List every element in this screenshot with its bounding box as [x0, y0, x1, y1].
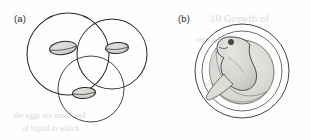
blastodisc-lower: [72, 87, 96, 100]
embryo-eye: [228, 39, 233, 44]
blastodisc-upper-left-body: [49, 40, 78, 57]
panel-b-label: (b): [178, 13, 190, 24]
figure-container: 10 Growth of reproduction development th…: [0, 0, 311, 140]
panel-a: (a): [14, 13, 147, 122]
bleed-line-4: of liquid in which: [22, 124, 79, 133]
bleed-line-3: the eggs are small and: [14, 111, 85, 120]
panel-a-label: (a): [14, 13, 26, 24]
panel-b: (b): [178, 13, 289, 118]
upper-right-egg: [77, 19, 147, 89]
blastodisc-upper-right: [105, 42, 129, 55]
embryo-figure: 10 Growth of reproduction development th…: [0, 0, 311, 140]
blastodisc-upper-left: [49, 40, 78, 57]
bleed-line-0: 10 Growth of: [210, 12, 270, 24]
